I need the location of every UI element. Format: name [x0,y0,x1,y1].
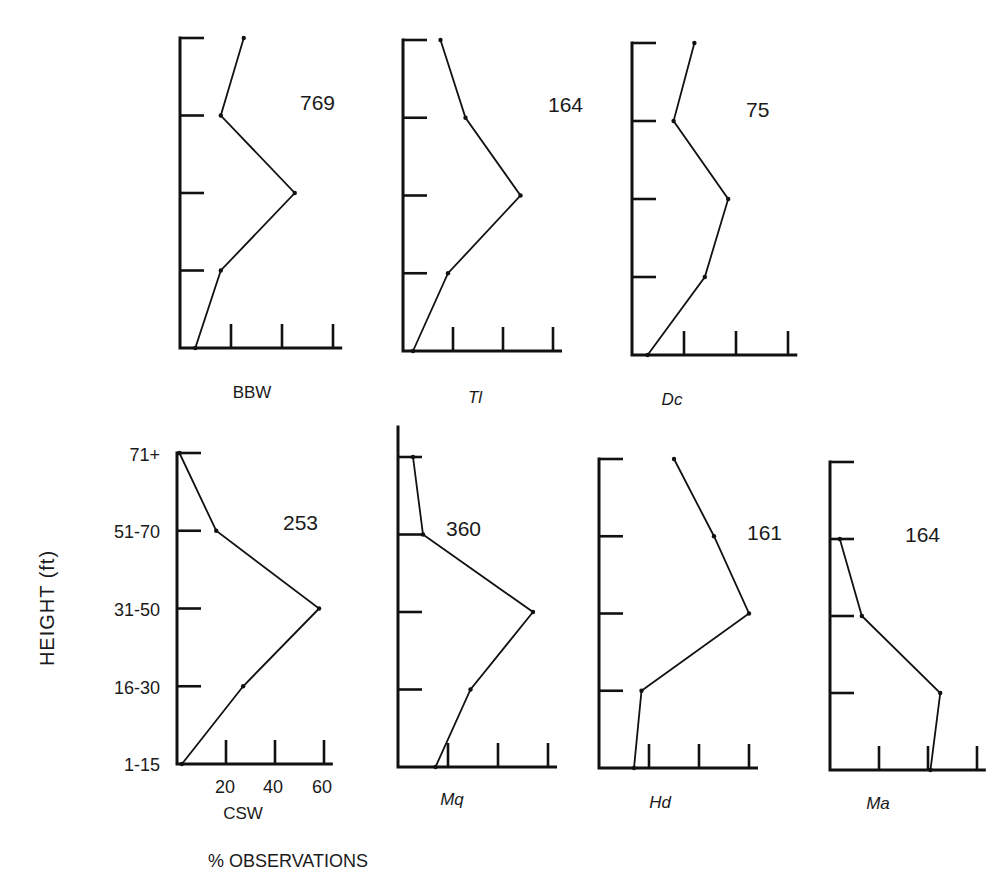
data-point [531,610,535,614]
data-point [411,349,415,353]
panel-bbw: 769BBW [180,36,341,402]
y-tick-label-31-50: 31-50 [114,600,160,620]
data-point [703,275,707,279]
profile-line [840,539,940,770]
species-label: Mq [440,790,464,809]
profile-line [413,40,521,351]
panel-csw: 253CSW [177,451,331,823]
sample-size-label: 769 [300,91,335,114]
x-tick-label-40: 40 [263,777,283,797]
x-tick-label-60: 60 [312,777,332,797]
sample-size-label: 164 [905,523,940,546]
species-label: Dc [662,390,683,409]
data-point [463,116,467,120]
data-point [219,268,223,272]
figure: 769BBW164Tl75Dc253CSW360Mq161Hd164Ma HEI… [0,0,1002,892]
sample-size-label: 161 [747,521,782,544]
panel-hd: 161Hd [599,457,782,812]
data-point [433,765,437,769]
y-tick-labels: 71+ 51-70 31-50 16-30 1-15 [114,445,160,775]
sample-size-label: 75 [746,98,769,121]
y-tick-label-71plus: 71+ [129,445,160,465]
data-point [438,38,442,42]
data-point [180,762,184,766]
profile-line [195,38,294,348]
data-point [193,346,197,350]
y-tick-label-51-70: 51-70 [114,522,160,542]
data-point [518,193,522,197]
data-point [177,451,181,455]
panel-mq: 360Mq [398,427,556,809]
data-point [938,691,942,695]
data-point [671,119,675,123]
sample-size-label: 164 [548,93,583,116]
panel-ma: 164Ma [830,462,984,813]
species-label: CSW [223,804,263,823]
species-label: Ma [866,794,890,813]
data-point [219,113,223,117]
data-point [468,687,472,691]
data-point [692,41,696,45]
data-point [411,455,415,459]
data-point [860,614,864,618]
data-point [639,689,643,693]
y-axis-title: HEIGHT (ft) [36,550,58,666]
x-tick-label-20: 20 [215,777,235,797]
panel-axes [398,427,556,767]
data-point [726,197,730,201]
data-point [421,532,425,536]
species-label: Tl [468,388,483,407]
data-point [293,191,297,195]
panel-axes [180,38,341,348]
panel-axes [632,43,796,355]
data-point [645,353,649,357]
profile-line [648,43,729,355]
data-point [712,534,716,538]
data-point [242,36,246,40]
data-point [747,611,751,615]
x-tick-labels: 20 40 60 [215,777,332,797]
data-point [446,271,450,275]
data-point [214,529,218,533]
species-label: Hd [649,793,671,812]
data-point [928,768,932,772]
species-label: BBW [233,383,272,402]
x-axis-title: % OBSERVATIONS [208,851,368,871]
panel-tl: 164Tl [403,38,583,407]
vertical-profile-charts: 769BBW164Tl75Dc253CSW360Mq161Hd164Ma HEI… [0,0,1002,892]
sample-size-label: 360 [446,517,481,540]
y-tick-label-1-15: 1-15 [124,755,160,775]
panel-dc: 75Dc [632,41,796,409]
panels-group: 769BBW164Tl75Dc253CSW360Mq161Hd164Ma [177,36,984,823]
data-point [838,537,842,541]
data-point [632,766,636,770]
profile-line [413,457,533,767]
data-point [317,606,321,610]
y-tick-label-16-30: 16-30 [114,678,160,698]
sample-size-label: 253 [283,511,318,534]
data-point [672,457,676,461]
profile-line [634,459,749,768]
data-point [241,684,245,688]
